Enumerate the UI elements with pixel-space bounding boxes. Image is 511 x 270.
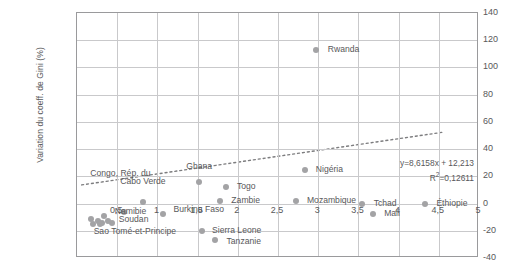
x-tick-label: 1,5 xyxy=(190,205,203,215)
y-tick-label: 60 xyxy=(483,116,493,126)
x-tick-label: 2,5 xyxy=(271,205,284,215)
gridline-horizontal xyxy=(77,122,477,123)
regression-r2: R2=0,12611 xyxy=(361,169,474,184)
data-point-label: Sao Tomé-et-Principe xyxy=(94,227,176,237)
r2-value: =0,12611 xyxy=(439,173,474,183)
data-point[interactable] xyxy=(217,198,223,204)
x-tick-label: 3,5 xyxy=(351,205,364,215)
data-point[interactable] xyxy=(196,179,202,185)
y-tick-label: 140 xyxy=(483,7,498,17)
data-point[interactable] xyxy=(422,201,428,207)
gridline-vertical xyxy=(278,13,279,256)
gridline-vertical xyxy=(238,13,239,256)
data-point-label: Cabo Verde xyxy=(120,177,165,187)
gridline-horizontal xyxy=(77,95,477,96)
y-tick-label: -20 xyxy=(483,225,496,235)
gridline-vertical xyxy=(198,13,199,256)
data-point[interactable] xyxy=(105,218,111,224)
plot-area: RwandaNigériaGhanaTogoZambieMozambiqueTc… xyxy=(76,12,478,257)
y-tick-label: 100 xyxy=(483,61,498,71)
data-point[interactable] xyxy=(223,184,229,190)
gridline-horizontal xyxy=(77,40,477,41)
x-tick-label: 3 xyxy=(315,205,320,215)
y-tick-label: 120 xyxy=(483,34,498,44)
regression-equation-box: y=8,6158x + 12,213 R2=0,12611 xyxy=(361,158,474,184)
data-point-label: Tchad xyxy=(374,199,397,209)
data-point-label: Congo, Rép. du xyxy=(90,169,150,179)
regression-equation: y=8,6158x + 12,213 xyxy=(361,158,474,169)
scatter-chart-figure: Variation du coeff. de Gini (%) RwandaNi… xyxy=(0,0,511,270)
data-point[interactable] xyxy=(199,228,205,234)
y-tick-label: 80 xyxy=(483,89,493,99)
y-tick-label: -40 xyxy=(483,252,496,262)
gridline-horizontal xyxy=(77,149,477,150)
data-point-label: Nigéria xyxy=(316,165,343,175)
data-point-label: Ghana xyxy=(186,162,212,172)
gridline-vertical xyxy=(157,13,158,256)
y-tick-label: 40 xyxy=(483,143,493,153)
x-tick-label: 1 xyxy=(154,205,159,215)
data-point[interactable] xyxy=(293,198,299,204)
gridline-horizontal xyxy=(77,67,477,68)
x-tick-label: 4 xyxy=(395,205,400,215)
x-tick-label: 4,5 xyxy=(432,205,445,215)
data-point[interactable] xyxy=(302,167,308,173)
data-point-label: Togo xyxy=(237,182,256,192)
gridline-vertical xyxy=(439,13,440,256)
data-point[interactable] xyxy=(313,47,319,53)
x-tick-label: 0,5 xyxy=(110,205,123,215)
data-point-label: Tanzanie xyxy=(227,237,261,247)
y-tick-label: 20 xyxy=(483,170,493,180)
data-point-label: Rwanda xyxy=(328,45,360,55)
x-tick-label: 2 xyxy=(234,205,239,215)
x-tick-label: 5 xyxy=(475,205,480,215)
y-tick-label: 0 xyxy=(483,198,488,208)
gridline-vertical xyxy=(399,13,400,256)
y-axis-title: Variation du coeff. de Gini (%) xyxy=(35,5,45,205)
data-point-label: Sierra Leone xyxy=(212,226,261,236)
data-point-label: Soudan xyxy=(119,215,149,225)
